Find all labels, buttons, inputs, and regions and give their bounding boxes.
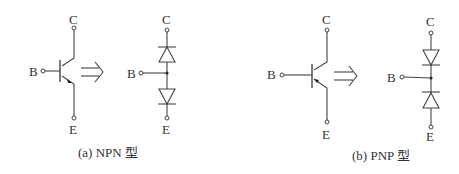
npn-model-collector-terminal xyxy=(165,28,169,32)
npn-lower-diode-icon xyxy=(158,89,176,104)
pnp-base-label: B xyxy=(267,67,276,82)
pnp-emitter-lead xyxy=(314,79,327,120)
pnp-model-base-terminal xyxy=(400,75,404,79)
caption-pnp: (b) PNP 型 xyxy=(352,148,410,163)
npn-model-collector-label: C xyxy=(162,12,171,27)
pnp-model-collector-label: C xyxy=(426,14,435,29)
pnp-lower-diode-icon xyxy=(422,92,440,108)
pnp-emitter-terminal xyxy=(325,120,329,124)
npn-model-base-terminal xyxy=(139,71,143,75)
pnp-collector-terminal xyxy=(325,28,329,32)
npn-collector-lead xyxy=(62,30,74,66)
pnp-model-emitter-label: E xyxy=(426,129,434,144)
pnp-transistor-symbol: C B E xyxy=(267,12,331,142)
bjt-diode-equivalent-diagram: C B E C B E (a) NPN 型 xyxy=(0,0,459,174)
pnp-emitter-label: E xyxy=(322,127,330,142)
npn-emitter-terminal xyxy=(72,116,76,120)
npn-transistor-symbol: C B E xyxy=(29,12,78,137)
pnp-base-terminal xyxy=(280,73,284,77)
npn-base-label: B xyxy=(29,64,38,79)
npn-equivalence-arrow-icon xyxy=(81,62,103,82)
npn-base-terminal xyxy=(41,69,45,73)
npn-emitter-label: E xyxy=(69,122,77,137)
npn-diode-model: C B E xyxy=(127,12,176,137)
pnp-model-base-lead xyxy=(404,77,431,78)
pnp-collector-label: C xyxy=(322,12,331,27)
pnp-collector-lead xyxy=(314,32,327,70)
npn-upper-diode-icon xyxy=(158,47,176,62)
npn-model-base-label: B xyxy=(127,66,136,81)
pnp-upper-diode-icon xyxy=(422,50,440,65)
pnp-equivalence-arrow-icon xyxy=(334,66,357,86)
pnp-diode-model: C B E xyxy=(387,14,440,144)
npn-collector-label: C xyxy=(69,12,78,27)
npn-collector-terminal xyxy=(72,26,76,30)
pnp-model-base-label: B xyxy=(387,70,396,85)
npn-model-emitter-label: E xyxy=(162,122,170,137)
pnp-model-collector-terminal xyxy=(429,31,433,35)
npn-model-emitter-terminal xyxy=(165,116,169,120)
caption-npn: (a) NPN 型 xyxy=(78,145,138,160)
